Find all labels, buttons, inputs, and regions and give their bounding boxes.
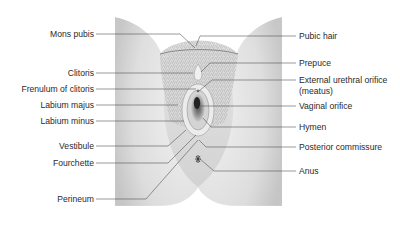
label-external-urethral-orifice: External urethral orifice bbox=[299, 75, 387, 85]
label-labium-minus: Labium minus bbox=[41, 116, 95, 126]
label-prepuce: Prepuce bbox=[299, 58, 331, 68]
label-vestibule: Vestibule bbox=[59, 141, 94, 151]
label-labium-majus: Labium majus bbox=[41, 100, 95, 110]
vulva-shape bbox=[182, 84, 214, 136]
label-anus: Anus bbox=[299, 166, 319, 176]
label-clitoris: Clitoris bbox=[68, 68, 94, 78]
label-hymen: Hymen bbox=[299, 122, 326, 132]
label-frenulum-of-clitoris: Frenulum of clitoris bbox=[21, 84, 94, 94]
label-posterior-commissure: Posterior commissure bbox=[299, 142, 382, 152]
label-meatus: (meatus) bbox=[299, 86, 333, 96]
label-fourchette: Fourchette bbox=[53, 158, 94, 168]
label-perineum: Perineum bbox=[57, 194, 94, 204]
label-mons-pubis: Mons pubis bbox=[50, 29, 94, 39]
label-pubic-hair: Pubic hair bbox=[299, 31, 337, 41]
label-vaginal-orifice: Vaginal orifice bbox=[299, 101, 352, 111]
